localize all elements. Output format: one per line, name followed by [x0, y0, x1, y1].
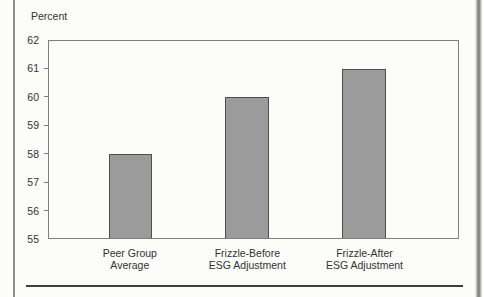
x-category-label-line: Average — [103, 260, 157, 272]
page: Percent 5556575859606162 Peer GroupAvera… — [0, 0, 484, 297]
footer-divider-line — [26, 285, 463, 287]
y-tick-label: 62 — [27, 34, 39, 46]
y-tick-label: 59 — [27, 119, 39, 131]
y-tick-label: 58 — [27, 148, 39, 160]
bar — [109, 154, 153, 238]
y-axis: 5556575859606162 — [0, 40, 48, 239]
y-tick-label: 61 — [27, 62, 39, 74]
y-tick-label: 55 — [27, 233, 39, 245]
y-axis-unit-label: Percent — [31, 10, 67, 22]
y-tick-label: 57 — [27, 176, 39, 188]
x-category-label-line: ESG Adjustment — [209, 260, 286, 272]
bar — [342, 69, 386, 238]
plot-area — [48, 40, 459, 239]
y-tick-label: 56 — [27, 205, 39, 217]
x-axis-labels: Peer GroupAverageFrizzle-BeforeESG Adjus… — [48, 248, 459, 276]
x-category-label-line: Peer Group — [103, 248, 157, 260]
x-category-label: Frizzle-BeforeESG Adjustment — [209, 248, 286, 271]
x-category-label-line: ESG Adjustment — [326, 260, 403, 272]
y-tick-label: 60 — [27, 91, 39, 103]
bar — [225, 97, 269, 238]
x-category-label-line: Frizzle-After — [326, 248, 403, 260]
x-category-label-line: Frizzle-Before — [209, 248, 286, 260]
x-category-label: Peer GroupAverage — [103, 248, 157, 271]
x-category-label: Frizzle-AfterESG Adjustment — [326, 248, 403, 271]
page-edge-shadow — [475, 0, 482, 297]
